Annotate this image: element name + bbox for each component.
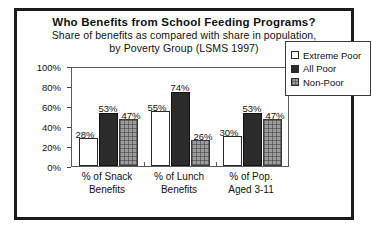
- page-title: Who Benefits from School Feeding Program…: [17, 15, 351, 29]
- bar-all-poor: [243, 113, 262, 166]
- x-axis-category-label-line: Benefits: [82, 184, 133, 197]
- y-axis-tick-label: 40%: [42, 122, 61, 133]
- legend-swatch-non-poor: [291, 78, 299, 86]
- x-axis-group-separator: [144, 162, 145, 166]
- legend-label-non-poor: Non-Poor: [303, 77, 344, 88]
- x-axis-group-separator: [216, 162, 217, 166]
- bar-value-label: 47%: [121, 110, 140, 121]
- bar-extreme-poor: [223, 136, 242, 166]
- legend-item-non-poor[interactable]: Non-Poor: [291, 77, 366, 88]
- legend-label-extreme-poor: Extreme Poor: [303, 50, 361, 61]
- bar-non-poor: [119, 119, 138, 166]
- bar-value-label: 55%: [147, 102, 166, 113]
- bar-extreme-poor: [151, 111, 170, 166]
- bar-all-poor: [99, 113, 118, 166]
- legend-item-extreme-poor[interactable]: Extreme Poor: [291, 50, 366, 61]
- chart-frame: Who Benefits from School Feeding Program…: [14, 8, 354, 220]
- y-axis-tick-label: 20%: [42, 142, 61, 153]
- y-axis-tick-label: 100%: [37, 62, 61, 73]
- y-axis-tick-mark: [67, 167, 71, 168]
- x-axis-category-label-line: Aged 3-11: [228, 184, 273, 197]
- y-axis: 100%80%60%40%20%0%: [29, 67, 67, 167]
- y-axis-tick-label: 60%: [42, 102, 61, 113]
- bar-value-label: 26%: [193, 131, 212, 142]
- bar-value-label: 53%: [242, 103, 261, 114]
- bar-value-label: 74%: [170, 82, 189, 93]
- x-axis-category-label-line: % of Snack: [82, 171, 133, 184]
- bar-extreme-poor: [79, 138, 98, 166]
- chart-legend: Extreme Poor All Poor Non-Poor: [285, 41, 371, 96]
- bar-non-poor: [263, 119, 282, 166]
- x-axis-category-label: % of LunchBenefits: [154, 171, 204, 196]
- x-axis-category-label: % of Pop.Aged 3-11: [228, 171, 273, 196]
- y-axis-tick-label: 80%: [42, 82, 61, 93]
- bar-value-label: 47%: [265, 110, 284, 121]
- y-axis-tick-label: 0%: [47, 162, 61, 173]
- x-axis-category-label-line: % of Pop.: [228, 171, 273, 184]
- legend-item-all-poor[interactable]: All Poor: [291, 63, 366, 74]
- bar-value-label: 53%: [98, 103, 117, 114]
- plot-area: 28%53%47%55%74%26%30%53%47%: [71, 67, 289, 167]
- x-axis-category-label: % of SnackBenefits: [82, 171, 133, 196]
- x-axis-category-label-line: % of Lunch: [154, 171, 204, 184]
- x-axis-category-label-line: Benefits: [154, 184, 204, 197]
- bar-value-label: 30%: [219, 127, 238, 138]
- bar-non-poor: [191, 140, 210, 166]
- bar-value-label: 28%: [75, 129, 94, 140]
- legend-swatch-extreme-poor: [291, 51, 299, 59]
- legend-swatch-all-poor: [291, 65, 299, 73]
- bar-all-poor: [171, 92, 190, 166]
- legend-label-all-poor: All Poor: [303, 63, 336, 74]
